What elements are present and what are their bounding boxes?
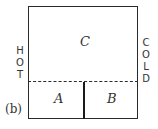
region-b-label: B (107, 92, 117, 105)
solid-divider-wall (83, 82, 85, 119)
hot-side-label: H O T (15, 45, 25, 81)
cold-letter: O (141, 49, 151, 61)
cold-side-label: C O L D (141, 37, 151, 85)
cold-letter: C (141, 37, 151, 49)
region-a-label: A (54, 92, 63, 105)
region-c-label: C (80, 35, 90, 48)
hot-letter: O (15, 57, 25, 69)
hot-letter: H (15, 45, 25, 57)
cold-letter: D (141, 73, 151, 85)
cold-letter: L (141, 61, 151, 73)
hot-letter: T (15, 69, 25, 81)
panel-label: (b) (5, 103, 22, 115)
